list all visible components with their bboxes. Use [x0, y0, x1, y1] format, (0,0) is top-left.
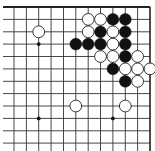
white-stone[interactable]: [119, 100, 131, 112]
white-stone[interactable]: [82, 26, 94, 38]
star-point-icon: [37, 42, 41, 46]
white-stone[interactable]: [107, 26, 119, 38]
white-stone[interactable]: [95, 51, 107, 63]
white-stone[interactable]: [107, 38, 119, 50]
white-stone[interactable]: [107, 51, 119, 63]
go-board[interactable]: [0, 0, 155, 151]
white-stone[interactable]: [132, 51, 144, 63]
black-stone[interactable]: [119, 26, 131, 38]
white-stone[interactable]: [132, 63, 144, 75]
black-stone[interactable]: [95, 26, 107, 38]
white-stone[interactable]: [95, 14, 107, 26]
white-stone[interactable]: [144, 63, 155, 75]
black-stone[interactable]: [82, 38, 94, 50]
black-stone[interactable]: [70, 38, 82, 50]
white-stone[interactable]: [132, 75, 144, 87]
white-stone[interactable]: [119, 63, 131, 75]
white-stone[interactable]: [33, 26, 45, 38]
black-stone[interactable]: [107, 63, 119, 75]
black-stone[interactable]: [119, 51, 131, 63]
white-stone[interactable]: [82, 14, 94, 26]
black-stone[interactable]: [107, 14, 119, 26]
star-point-icon: [37, 117, 41, 121]
black-stone[interactable]: [95, 38, 107, 50]
black-stone[interactable]: [119, 75, 131, 87]
star-point-icon: [111, 117, 115, 121]
black-stone[interactable]: [119, 14, 131, 26]
go-board-grid[interactable]: [0, 0, 155, 151]
black-stone[interactable]: [119, 38, 131, 50]
white-stone[interactable]: [70, 100, 82, 112]
